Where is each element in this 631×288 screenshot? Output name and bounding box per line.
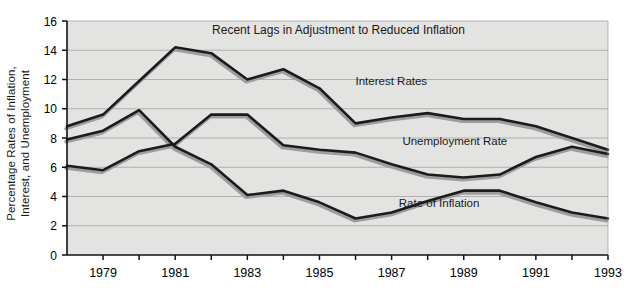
x-tick-label-1983: 1983 (233, 266, 261, 280)
series-label-rate-of-inflation: Rate of Inflation (399, 197, 480, 209)
x-tick-label-1991: 1991 (522, 266, 550, 280)
y-tick-label-16: 16 (44, 15, 58, 29)
y-tick-label-14: 14 (44, 44, 58, 58)
x-tick-label-1987: 1987 (378, 266, 406, 280)
y-tick-label-12: 12 (44, 73, 58, 87)
y-axis-tick-labels: 0246810121416 (44, 15, 58, 263)
chart-title-text: Recent Lags in Adjustment to Reduced Inf… (212, 23, 465, 37)
line-chart: 0246810121416 19791981198319851987198919… (0, 0, 631, 288)
y-tick-label-8: 8 (50, 132, 57, 146)
y-tick-label-6: 6 (50, 161, 57, 175)
chart-title: Recent Lags in Adjustment to Reduced Inf… (212, 23, 465, 37)
y-tick-label-10: 10 (44, 102, 58, 116)
series-label-unemployment-rate: Unemployment Rate (402, 135, 507, 147)
chart-figure: Percentage Rates of Inflation, Interest,… (0, 0, 631, 288)
x-tick-label-1989: 1989 (450, 266, 478, 280)
y-tick-label-4: 4 (50, 190, 57, 204)
x-tick-label-1985: 1985 (306, 266, 334, 280)
x-tick-label-1981: 1981 (161, 266, 189, 280)
y-tick-label-2: 2 (50, 219, 57, 233)
x-tick-label-1979: 1979 (89, 266, 117, 280)
y-tick-label-0: 0 (50, 249, 57, 263)
x-tick-label-1993: 1993 (594, 266, 622, 280)
x-axis-tick-labels: 19791981198319851987198919911993 (89, 266, 622, 280)
series-label-interest-rates: Interest Rates (356, 75, 428, 87)
